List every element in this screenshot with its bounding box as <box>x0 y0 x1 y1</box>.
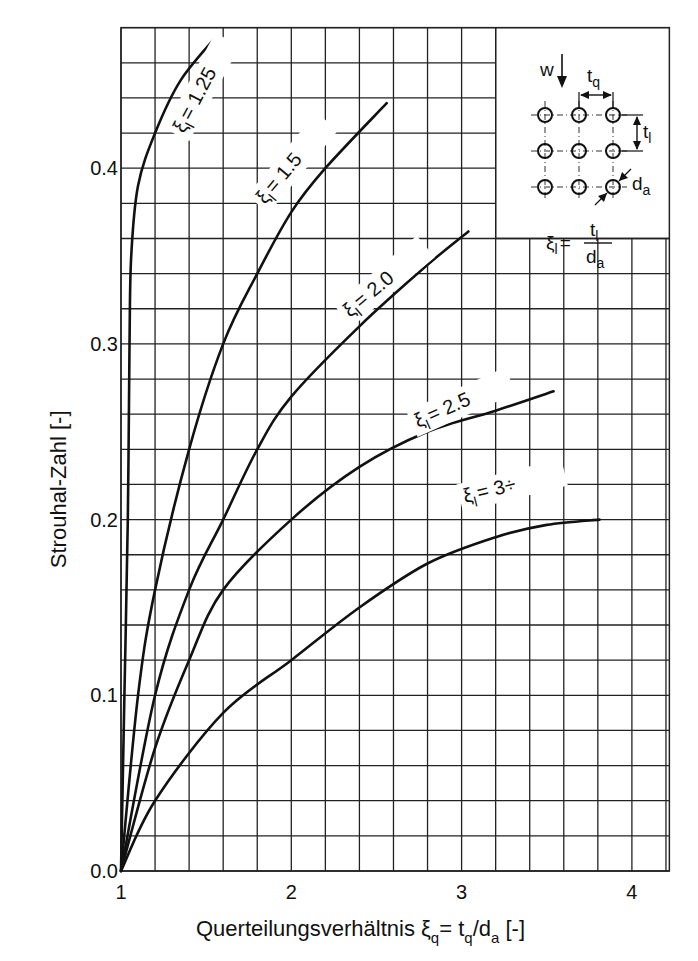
x-tick-label: 1 <box>115 881 126 903</box>
grid <box>121 28 669 871</box>
y-tick-label: 0.4 <box>90 157 118 179</box>
formula: ξl= <box>546 232 571 257</box>
curves <box>121 36 600 871</box>
svg-text:w: w <box>539 59 554 80</box>
svg-text:tl: tl <box>590 219 598 244</box>
x-axis-title: Querteilungsverhältnis ξq= tq/da [-] <box>196 916 525 946</box>
svg-text:ξl= 3÷: ξl= 3÷ <box>461 473 519 512</box>
curve-labels: ξl= 1.25ξl= 1.5ξl= 2.0ξl= 2.5ξl= 3÷ <box>164 33 568 513</box>
svg-text:tl: tl <box>643 121 651 146</box>
y-tick-label: 0.1 <box>90 684 118 706</box>
x-tick-label: 2 <box>286 881 297 903</box>
strouhal-chart: wtqtldaξl=tlda ξl= 1.25ξl= 1.5ξl= 2.0ξl=… <box>0 0 698 961</box>
curve-label-4: ξl= 3÷ <box>456 458 568 512</box>
curve-label-2: ξl= 2.0 <box>334 236 435 328</box>
y-axis-title: Strouhal-Zahl [-] <box>46 410 71 568</box>
axis-ticks: 12340.00.10.20.30.4 <box>90 157 637 903</box>
svg-text:tq: tq <box>587 65 600 90</box>
flow-arrow-icon <box>557 76 567 88</box>
curve-series-1 <box>121 103 387 871</box>
y-tick-label: 0.0 <box>90 860 118 882</box>
y-tick-label: 0.3 <box>90 333 118 355</box>
x-tick-label: 4 <box>626 881 637 903</box>
y-tick-label: 0.2 <box>90 509 118 531</box>
curve-series-0 <box>121 36 216 871</box>
svg-text:ξl= 1.25: ξl= 1.25 <box>168 64 225 139</box>
svg-text:da: da <box>632 173 651 198</box>
svg-text:da: da <box>586 246 605 271</box>
x-tick-label: 3 <box>456 881 467 903</box>
